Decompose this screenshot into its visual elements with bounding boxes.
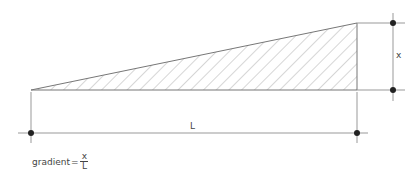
formula-equals: = [71, 157, 79, 167]
height-label: x [396, 50, 401, 60]
formula-numerator: x [82, 152, 87, 161]
formula-lhs: gradient [32, 157, 70, 167]
length-label: L [190, 121, 195, 131]
formula-fraction: x L [80, 152, 88, 171]
hatched-wedge [31, 23, 357, 90]
gradient-formula: gradient = x L [32, 152, 88, 171]
length-dimension [18, 92, 368, 143]
formula-denominator: L [82, 162, 87, 171]
